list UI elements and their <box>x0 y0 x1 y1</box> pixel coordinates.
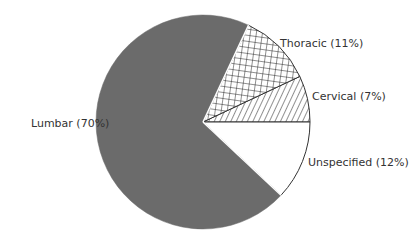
pie-slices <box>96 15 310 229</box>
label-lumbar: Lumbar (70%) <box>31 117 109 130</box>
label-unspecified: Unspecified (12%) <box>308 156 409 169</box>
label-thoracic: Thoracic (11%) <box>280 37 363 50</box>
label-cervical: Cervical (7%) <box>312 90 386 103</box>
